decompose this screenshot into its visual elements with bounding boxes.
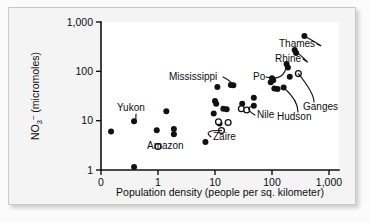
annotation-label-mississippi: Mississippi: [169, 71, 217, 82]
x-tick-label-0: 0: [98, 176, 104, 188]
data-point-filled: [202, 139, 208, 145]
figure-root: 1101001,00001101001,000 ThamesRhinePoGan…: [0, 0, 370, 223]
data-point-filled: [154, 127, 160, 133]
data-point-filled: [163, 108, 169, 114]
data-point-filled: [213, 101, 219, 107]
data-point-filled: [251, 95, 257, 101]
y-tick-label-1,000: 1,000: [67, 16, 93, 28]
data-point-filled: [211, 110, 217, 116]
scatter-plot-svg: 1101001,00001101001,000 ThamesRhinePoGan…: [17, 14, 349, 200]
data-point-open: [216, 119, 222, 125]
annotation-label-amazon: Amazon: [147, 140, 184, 151]
data-point-filled: [131, 164, 137, 170]
annotation-label-hudson: Hudson: [277, 111, 311, 122]
data-point-filled: [275, 86, 281, 92]
data-point-filled: [171, 131, 177, 137]
plot-area: 1101001,00001101001,000 ThamesRhinePoGan…: [17, 14, 349, 200]
data-point-open: [225, 120, 231, 126]
data-point-filled: [108, 129, 114, 135]
annotation-label-nile: Nile: [257, 109, 275, 120]
annotation-label-thames: Thames: [279, 38, 315, 49]
annotation-label-yukon: Yukon: [117, 102, 145, 113]
y-axis-title: NO3– (micromoles): [28, 52, 44, 140]
annotation-label-po: Po: [253, 71, 266, 82]
annotation-label-rhine: Rhine: [275, 53, 302, 64]
data-point-filled: [214, 84, 220, 90]
y-tick-label-100: 100: [75, 65, 93, 77]
figure-card: 1101001,00001101001,000 ThamesRhinePoGan…: [8, 7, 356, 205]
x-axis-title: Population density (people per sq. kilom…: [116, 186, 324, 198]
data-point-filled: [171, 126, 177, 132]
data-point-filled: [287, 74, 293, 80]
annotation-label-zaire: Zaire: [213, 131, 236, 142]
data-point-filled: [224, 106, 230, 112]
y-tick-label-10: 10: [81, 114, 93, 126]
y-tick-label-1: 1: [87, 164, 93, 176]
